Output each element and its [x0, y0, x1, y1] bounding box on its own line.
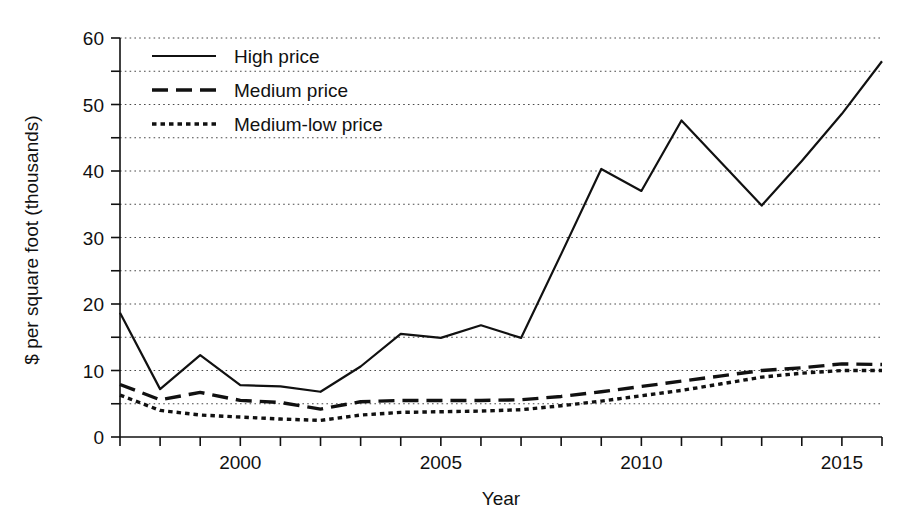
y-axis: 0102030405060: [83, 28, 120, 448]
x-axis-ticks: [120, 437, 882, 446]
x-axis-tick-labels: 2000200520102015: [219, 452, 863, 473]
y-tick-label: 20: [83, 294, 104, 315]
x-axis-title: Year: [482, 488, 521, 509]
y-tick-label: 0: [93, 427, 104, 448]
x-tick-label: 2000: [219, 452, 261, 473]
y-axis-ticks: [111, 38, 120, 437]
x-tick-label: 2005: [420, 452, 462, 473]
x-tick-label: 2010: [620, 452, 662, 473]
line-chart: 0102030405060 2000200520102015 Year $ pe…: [0, 0, 919, 519]
chart-container: 0102030405060 2000200520102015 Year $ pe…: [0, 0, 919, 519]
series-line-2: [120, 371, 882, 421]
series-line-0: [120, 61, 882, 392]
y-axis-tick-labels: 0102030405060: [83, 28, 104, 448]
y-tick-label: 40: [83, 161, 104, 182]
y-tick-label: 30: [83, 228, 104, 249]
legend-label-1: Medium price: [234, 80, 348, 101]
y-axis-title: $ per square foot (thousands): [21, 115, 42, 364]
chart-legend: High priceMedium priceMedium-low price: [152, 46, 383, 135]
x-axis: 2000200520102015: [120, 437, 882, 473]
y-tick-label: 10: [83, 361, 104, 382]
legend-label-2: Medium-low price: [234, 114, 383, 135]
series-line-1: [120, 364, 882, 409]
legend-label-0: High price: [234, 46, 320, 67]
x-tick-label: 2015: [821, 452, 863, 473]
y-tick-label: 50: [83, 95, 104, 116]
y-tick-label: 60: [83, 28, 104, 49]
